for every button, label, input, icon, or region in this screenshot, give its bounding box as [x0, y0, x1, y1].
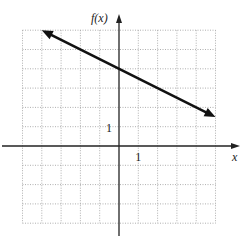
x-axis-label: x — [231, 150, 238, 164]
x-tick-label: 1 — [135, 150, 141, 164]
y-axis-label: f(x) — [91, 11, 108, 25]
chart: f(x) x 1 1 — [0, 0, 243, 242]
function-line — [47, 33, 210, 114]
x-axis-arrow-icon — [231, 143, 240, 149]
y-tick-label: 1 — [106, 121, 112, 135]
y-axis-arrow-icon — [116, 14, 122, 23]
